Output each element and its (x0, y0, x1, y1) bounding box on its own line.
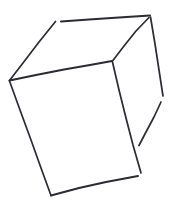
sketch-background (0, 0, 177, 215)
sketch-canvas (0, 0, 177, 215)
cube-sketch-svg (0, 0, 177, 215)
